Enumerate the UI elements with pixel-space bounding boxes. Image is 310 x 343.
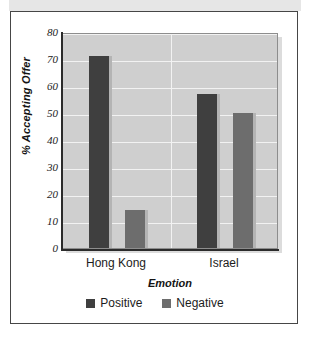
gridline <box>63 34 277 35</box>
legend-swatch-icon <box>86 299 95 308</box>
y-axis-tick-label: 10 <box>12 216 58 227</box>
plot-area <box>62 33 278 249</box>
x-axis-category-label: Hong Kong <box>62 256 170 270</box>
y-axis-tick-label: 30 <box>12 162 58 173</box>
x-axis-line <box>61 249 279 251</box>
y-axis-tick-label: 40 <box>12 135 58 146</box>
legend-item-negative[interactable]: Negative <box>162 296 223 310</box>
y-axis-tick-label: 50 <box>12 108 58 119</box>
legend-label: Positive <box>100 296 142 310</box>
figure-page: 80706050403020100 % Accepting Offer Hong… <box>0 0 310 343</box>
y-axis-title: % Accepting Offer <box>20 41 32 171</box>
bar-hong-kong-negative <box>125 210 145 248</box>
y-axis-tick-label: 60 <box>12 81 58 92</box>
legend-item-positive[interactable]: Positive <box>86 296 142 310</box>
y-axis-tick-label: 70 <box>12 54 58 65</box>
bar-israel-negative <box>233 113 253 248</box>
x-axis-category-label: Israel <box>170 256 278 270</box>
legend-swatch-icon <box>162 299 171 308</box>
category-divider <box>171 34 172 248</box>
y-axis-tick-label: 20 <box>12 189 58 200</box>
legend-label: Negative <box>176 296 223 310</box>
x-axis-title: Emotion <box>62 277 278 289</box>
bar-israel-positive <box>197 94 217 248</box>
y-axis-tick-label: 80 <box>12 27 58 38</box>
legend: PositiveNegative <box>40 296 270 310</box>
y-axis-tick-labels: 80706050403020100 <box>8 0 58 343</box>
y-axis-line <box>61 32 63 251</box>
bar-hong-kong-positive <box>89 56 109 248</box>
y-axis-tick-label: 0 <box>12 243 58 254</box>
